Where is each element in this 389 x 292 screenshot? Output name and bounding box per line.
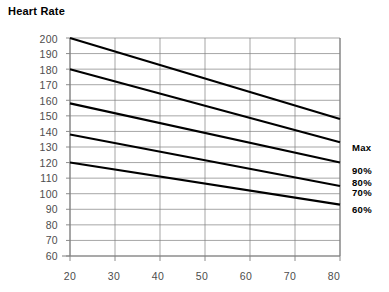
axis-ticks	[66, 38, 340, 261]
gridlines	[70, 38, 340, 256]
plot-area	[0, 0, 389, 292]
heart-rate-chart: Heart Rate 200 190 180 170 160 150 140 1…	[0, 0, 389, 292]
